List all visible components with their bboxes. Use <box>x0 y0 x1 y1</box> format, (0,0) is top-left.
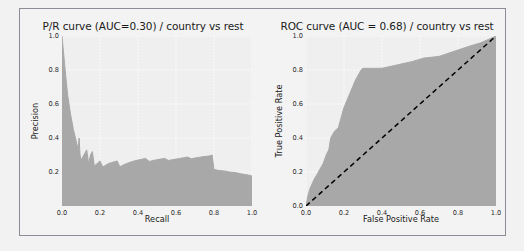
roc-y-tick-label: 1.0 <box>293 32 304 40</box>
pr-y-tick-label: 0.4 <box>49 134 60 142</box>
pr-plot-area: 0.20.40.60.81.00.00.20.40.60.81.0 <box>62 36 252 206</box>
pr-x-axis-label: Recall <box>62 214 252 224</box>
roc-y-tick-label: 0.8 <box>293 66 304 74</box>
roc-plot-area: 0.00.20.40.60.81.00.00.20.40.60.81.0 <box>306 36 496 206</box>
pr-y-tick-label: 0.6 <box>49 100 60 108</box>
panel-pr-curve: P/R curve (AUC=0.30) / country vs rest P… <box>22 10 264 236</box>
pr-y-tick-label: 0.2 <box>49 168 60 176</box>
roc-y-axis-label: True Positive Rate <box>273 36 285 206</box>
pr-y-tick-label: 0.8 <box>49 66 60 74</box>
roc-y-axis-label-text: True Positive Rate <box>274 85 284 158</box>
roc-x-axis-label: False Positive Rate <box>306 214 496 224</box>
pr-chart-title: P/R curve (AUC=0.30) / country vs rest <box>22 20 264 32</box>
roc-curve-svg <box>306 36 496 206</box>
roc-chart-title: ROC curve (AUC = 0.68) / country vs rest <box>266 20 508 32</box>
pr-y-tick-label: 1.0 <box>49 32 60 40</box>
roc-y-tick-label: 0.2 <box>293 168 304 176</box>
pr-curve-svg <box>62 36 252 206</box>
roc-y-tick-label: 0.6 <box>293 100 304 108</box>
pr-y-axis-label-text: Precision <box>30 103 40 140</box>
figure-canvas: P/R curve (AUC=0.30) / country vs rest P… <box>0 0 524 251</box>
roc-y-tick-label: 0.4 <box>293 134 304 142</box>
pr-y-axis-label: Precision <box>29 36 41 206</box>
panel-roc-curve: ROC curve (AUC = 0.68) / country vs rest… <box>266 10 508 236</box>
